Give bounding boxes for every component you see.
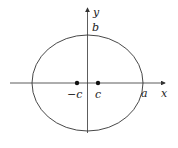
focus-left-point [75, 81, 79, 85]
ellipse-diagram: y b x a −c c [0, 0, 178, 148]
focus-right-label: c [95, 88, 101, 101]
focus-left-label: −c [67, 88, 82, 101]
a-label: a [141, 87, 148, 100]
focus-right-point [96, 81, 100, 85]
x-axis-label: x [161, 87, 168, 100]
y-axis-label: y [92, 6, 100, 19]
b-label: b [92, 21, 99, 34]
